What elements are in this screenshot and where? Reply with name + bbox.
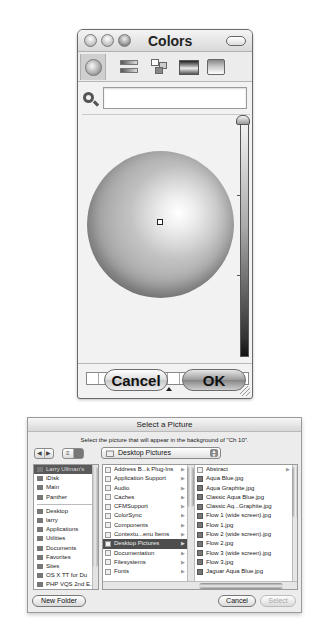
window-title: Colors [148, 33, 192, 49]
swatch[interactable] [87, 373, 99, 384]
new-folder-button[interactable]: New Folder [32, 595, 86, 607]
list-item[interactable]: Flow 2.jpg [195, 539, 298, 548]
sidebar-item[interactable]: Sites [34, 562, 98, 571]
list-item[interactable]: Flow 2 (wide screen).jpg [195, 530, 298, 539]
list-item[interactable]: Application Support▶ [103, 474, 194, 483]
palettes-icon [151, 59, 171, 75]
list-item[interactable]: Desktop Pictures▶ [103, 539, 194, 548]
folder-icon [105, 550, 111, 556]
list-item[interactable]: Classic Aqua Blue.jpg [195, 493, 298, 502]
sidebar-item[interactable]: PHP VQS 2nd E... [34, 580, 98, 589]
list-item[interactable]: Fonts▶ [103, 567, 194, 576]
image-file-icon [197, 513, 203, 519]
list-item[interactable]: Abstract▶ [195, 465, 298, 474]
disclosure-arrow-icon: ▶ [181, 493, 185, 502]
horizontal-scrollbar[interactable] [103, 581, 297, 589]
scrollbar-thumb[interactable] [292, 467, 298, 517]
sidebar-item[interactable]: OS X TT for Du [34, 571, 98, 580]
sidebar-item[interactable]: Favorites [34, 553, 98, 562]
sidebar-item[interactable]: Larry Ullman's [34, 465, 98, 474]
list-item[interactable]: Flow 3 (wide screen).jpg [195, 549, 298, 558]
location-popup[interactable]: Desktop Pictures ▲▼ [101, 447, 221, 459]
image-file-icon [197, 504, 203, 510]
list-item[interactable]: CFMSupport▶ [103, 502, 194, 511]
sidebar-item[interactable]: Panther [34, 493, 98, 502]
view-toggle: ≡ [62, 448, 84, 459]
divider [37, 504, 95, 505]
home-icon [37, 518, 43, 523]
magnifier-icon[interactable] [83, 92, 94, 103]
sidebar-item[interactable]: Main [34, 483, 98, 492]
computer-icon [37, 467, 43, 472]
title-bar[interactable]: Colors [78, 30, 252, 52]
sidebar-item[interactable]: iDisk [34, 474, 98, 483]
wheel-cursor[interactable] [157, 219, 163, 225]
sidebar-item[interactable]: Utilities [34, 534, 98, 543]
select-button[interactable]: Select [260, 595, 296, 607]
sidebar-item[interactable]: Desktop [34, 507, 98, 516]
tab-crayons[interactable] [203, 54, 229, 80]
disclosure-arrow-icon: ▶ [181, 549, 185, 558]
swatch-drag-handle[interactable] [166, 387, 172, 391]
image-file-icon [197, 532, 203, 538]
tab-color-palettes[interactable] [148, 54, 174, 80]
list-view-button[interactable]: ≡ [63, 449, 74, 458]
column-library: Address B...k Plug-Ins▶ Application Supp… [103, 465, 195, 583]
list-item[interactable]: Documentation▶ [103, 549, 194, 558]
zoom-button[interactable] [118, 34, 131, 47]
sidebar-scrollbar[interactable] [92, 465, 98, 589]
list-item[interactable]: Flow 1 (wide screen).jpg [195, 511, 298, 520]
color-wheel[interactable] [87, 151, 234, 298]
list-item[interactable]: Jaguar Aqua Blue.jpg [195, 567, 298, 576]
back-button[interactable]: ◀ [35, 449, 45, 458]
list-item[interactable]: Classic Aq...Graphite.jpg [195, 502, 298, 511]
resize-grip[interactable] [240, 386, 250, 396]
image-file-icon [197, 476, 203, 482]
forward-button[interactable]: ▶ [45, 449, 54, 458]
list-item[interactable]: Aqua Blue.jpg [195, 474, 298, 483]
brightness-slider-knob[interactable] [236, 115, 250, 125]
tab-image-palettes[interactable] [176, 54, 202, 80]
sidebar-item[interactable]: Documents [34, 544, 98, 553]
select-picture-dialog: Select a Picture Select the picture that… [27, 417, 302, 613]
disclosure-arrow-icon: ▶ [181, 484, 185, 493]
list-item[interactable]: Filesystems▶ [103, 558, 194, 567]
list-item[interactable]: Flow 1.jpg [195, 521, 298, 530]
brightness-slider[interactable] [240, 119, 249, 357]
slider-tick [237, 275, 240, 276]
popup-arrows-icon: ▲▼ [210, 449, 218, 457]
list-item[interactable]: Flow 3.jpg [195, 558, 298, 567]
scrollbar-thumb[interactable] [187, 467, 194, 507]
folder-icon [105, 541, 111, 547]
book-icon [37, 573, 43, 578]
minimize-button[interactable] [101, 34, 114, 47]
column-view-button[interactable] [74, 449, 84, 458]
sidebar-item[interactable]: Applications [34, 525, 98, 534]
folder-icon [105, 559, 111, 565]
column-scrollbar[interactable] [292, 465, 298, 583]
image-file-icon [197, 550, 203, 556]
list-item[interactable]: Contextu...enu Items▶ [103, 530, 194, 539]
tab-color-wheel[interactable] [80, 54, 106, 80]
sidebar-item[interactable]: larry [34, 516, 98, 525]
close-button[interactable] [84, 34, 97, 47]
tab-color-sliders[interactable] [116, 54, 142, 80]
column-scrollbar[interactable] [187, 465, 194, 583]
list-item[interactable]: Address B...k Plug-Ins▶ [103, 465, 194, 474]
swatch[interactable] [168, 373, 180, 384]
color-wheel-panel [82, 114, 250, 339]
color-search-input[interactable] [103, 87, 247, 109]
list-item[interactable]: Components▶ [103, 521, 194, 530]
image-file-icon [197, 494, 203, 500]
list-item[interactable]: Caches▶ [103, 493, 194, 502]
ok-button[interactable]: OK [182, 369, 246, 391]
toolbar-toggle-button[interactable] [226, 36, 246, 46]
list-item[interactable]: Aqua Graphite.jpg [195, 484, 298, 493]
scrollbar-thumb[interactable] [92, 467, 98, 567]
cancel-button[interactable]: Cancel [218, 595, 256, 607]
crayons-icon [207, 59, 225, 75]
list-item[interactable]: ColorSync▶ [103, 511, 194, 520]
scrollbar-thumb[interactable] [199, 583, 283, 589]
list-item[interactable]: Audio▶ [103, 484, 194, 493]
cancel-button[interactable]: Cancel [104, 369, 168, 391]
